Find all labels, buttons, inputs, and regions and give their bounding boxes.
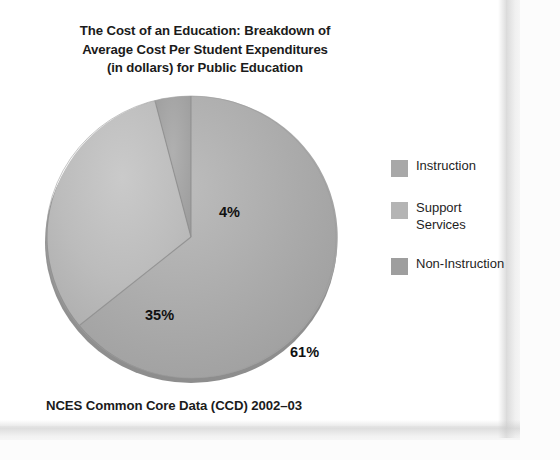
legend-label-support-services: Support Services: [416, 200, 466, 233]
page-margin-bottom: [0, 440, 560, 460]
pie-label-instruction: 61%: [290, 344, 319, 360]
legend-swatch-instruction: [391, 160, 408, 177]
legend-swatch-non-instruction: [391, 258, 408, 275]
chart-source-caption: NCES Common Core Data (CCD) 2002–03: [46, 398, 302, 413]
legend-label-support-services-line-1: Support: [416, 200, 466, 217]
pie-chart: 4% 35% 61%: [45, 95, 338, 385]
legend-label-instruction: Instruction: [416, 158, 476, 175]
page-margin-right: [520, 0, 560, 460]
page-edge-shadow-bottom: [0, 420, 522, 442]
chart-title-line-1: The Cost of an Education: Breakdown of: [18, 22, 392, 41]
legend-swatch-support-services: [391, 202, 408, 219]
pie-chart-svg: [45, 95, 338, 385]
pie-label-non-instruction: 4%: [219, 204, 240, 220]
chart-title: The Cost of an Education: Breakdown of A…: [18, 22, 392, 78]
pie-label-support-services: 35%: [145, 307, 174, 323]
scanned-page: The Cost of an Education: Breakdown of A…: [0, 0, 560, 460]
legend-item-non-instruction[interactable]: Non-Instruction: [391, 256, 511, 275]
legend-label-support-services-line-2: Services: [416, 217, 466, 234]
chart-title-line-3: (in dollars) for Public Education: [18, 59, 392, 78]
chart-title-line-2: Average Cost Per Student Expenditures: [18, 41, 392, 60]
legend-label-instruction-line-1: Instruction: [416, 158, 476, 175]
legend-item-instruction[interactable]: Instruction: [391, 158, 511, 177]
legend-label-non-instruction-line-1: Non-Instruction: [416, 256, 504, 273]
legend-label-non-instruction: Non-Instruction: [416, 256, 504, 273]
legend-item-support-services[interactable]: Support Services: [391, 200, 511, 233]
chart-legend: Instruction Support Services Non-Instruc…: [391, 158, 511, 298]
